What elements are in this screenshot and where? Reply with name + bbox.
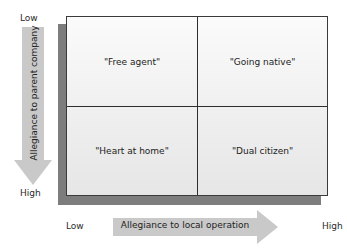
y-axis-label: Allegiance to parent company [29, 25, 39, 160]
quadrant-label: "Free agent" [104, 57, 160, 67]
quadrant-label: "Going native" [230, 57, 296, 67]
quadrant-label: "Heart at home" [95, 146, 169, 156]
x-axis-label: Allegiance to local operation [113, 220, 257, 230]
quadrant-label: "Dual citizen" [232, 146, 293, 156]
y-axis-low-label: Low [20, 13, 38, 23]
quadrant-dual-citizen: "Dual citizen" [197, 106, 327, 195]
matrix-grid: "Free agent" "Going native" "Heart at ho… [66, 16, 328, 196]
x-axis-high-label: High [322, 221, 343, 231]
x-axis-low-label: Low [66, 221, 84, 231]
quadrant-heart-at-home: "Heart at home" [67, 106, 197, 195]
y-axis-high-label: High [20, 188, 41, 198]
quadrant-free-agent: "Free agent" [67, 17, 197, 106]
quadrant-going-native: "Going native" [197, 17, 327, 106]
